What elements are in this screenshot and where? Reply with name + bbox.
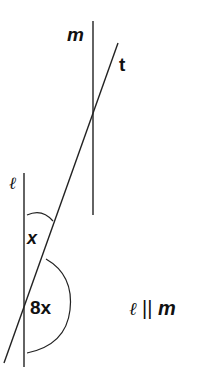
label-t: t [119,55,125,74]
angle-label-x: x [27,229,37,247]
note-m: m [158,297,176,319]
parallel-note: ℓ || m [129,298,176,318]
angle-arc-x [27,213,53,221]
note-l: ℓ [129,298,137,319]
label-m: m [67,25,84,44]
angle-label-8x: 8x [30,298,51,317]
line-t [4,43,118,363]
label-l: ℓ [9,175,16,192]
angle-label-8x-text: 8x [30,297,51,318]
note-parallel: || [142,297,152,319]
